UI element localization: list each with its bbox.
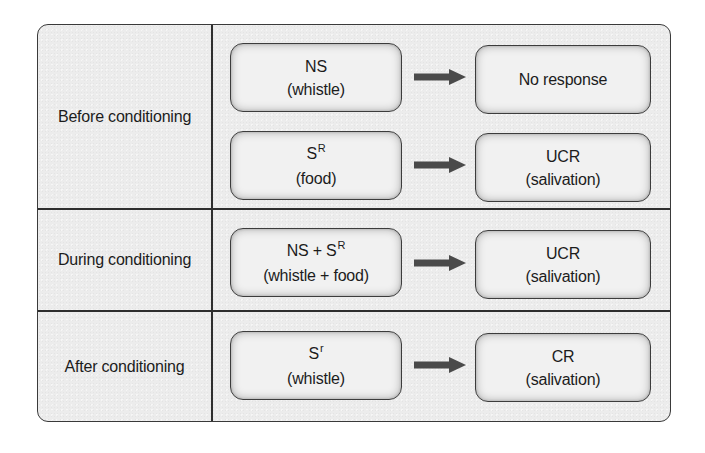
row-label-before: Before conditioning [38,25,211,208]
arrow-right-icon [414,357,466,373]
stimulus-box-ns-plus-sr: NS + SR (whistle + food) [230,228,402,297]
response-description: (salivation) [526,368,601,391]
arrow-right-icon [414,157,466,173]
superscript: R [338,239,346,251]
row-label-during: During conditioning [38,210,211,310]
arrow-right-icon [414,69,466,85]
stimulus-term: Sr [309,342,324,367]
arrow-right-icon [414,255,466,271]
row-label-text: Before conditioning [58,108,191,126]
response-description: (salivation) [526,265,601,288]
stimulus-box-sr-whistle: Sr (whistle) [230,331,402,400]
stimulus-description: (food) [296,167,337,190]
stimulus-box-ns-whistle: NS (whistle) [230,43,402,112]
stimulus-term: SR [306,142,325,167]
response-term: CR [552,345,575,368]
stimulus-term: NS + SR [287,239,346,264]
superscript: R [318,142,326,154]
response-term: No response [519,68,608,91]
response-description: (salivation) [526,168,601,191]
response-box-ucr: UCR (salivation) [475,133,651,202]
response-term: UCR [546,242,580,265]
column-divider [211,25,213,421]
stimulus-description: (whistle) [287,78,345,101]
stimulus-description: (whistle) [287,367,345,390]
stimulus-description: (whistle + food) [263,264,369,287]
response-term: UCR [546,145,580,168]
row-label-text: After conditioning [64,358,184,376]
row-label-after: After conditioning [38,312,211,421]
response-box-ucr: UCR (salivation) [475,230,651,299]
response-box-cr: CR (salivation) [475,333,651,402]
stimulus-box-sr-food: SR (food) [230,131,402,200]
superscript: r [320,342,323,354]
stimulus-term: NS [305,55,327,78]
row-label-text: During conditioning [58,251,191,269]
response-box-no-response: No response [475,45,651,114]
